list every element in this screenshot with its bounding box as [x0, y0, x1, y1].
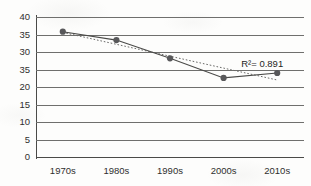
- y-axis-tick-label: 5: [8, 135, 30, 145]
- y-axis-tick-label: 10: [8, 117, 30, 127]
- y-axis-tick-label: 35: [8, 65, 30, 75]
- x-axis-tick-label: 1990s: [157, 166, 183, 176]
- x-axis-tick-label: 1970s: [50, 166, 76, 176]
- x-axis-tick-label: 2010s: [264, 166, 290, 176]
- data-point-marker: [274, 70, 280, 76]
- plot-area: [36, 17, 304, 157]
- x-axis-tick-label: 1980s: [103, 166, 129, 176]
- y-axis-tick-label: 40: [8, 12, 30, 22]
- x-axis-tick-labels: 1970s1980s1990s2000s2010s: [36, 166, 304, 180]
- data-series-line: [63, 32, 277, 78]
- y-axis-tick-label: 15: [8, 100, 30, 110]
- gridline: [36, 157, 304, 158]
- y-axis-tick-label: 20: [8, 82, 30, 92]
- x-axis-tick-label: 2000s: [211, 166, 237, 176]
- y-axis-tick-label: 35: [8, 30, 30, 40]
- y-axis-tick-label: 0: [8, 152, 30, 162]
- y-axis-tick-labels: 4035303520151050: [4, 17, 30, 157]
- data-point-marker: [60, 29, 66, 35]
- data-point-marker: [221, 75, 227, 81]
- data-point-marker: [167, 55, 173, 61]
- r-squared-annotation: R²= 0.891: [241, 59, 283, 69]
- chart-container: 4035303520151050 R²= 0.891 1970s1980s199…: [0, 0, 311, 186]
- data-point-marker: [113, 37, 119, 43]
- y-axis-tick-label: 30: [8, 47, 30, 57]
- series-layer: [36, 17, 304, 157]
